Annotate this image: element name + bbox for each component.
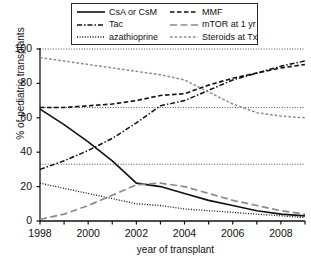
legend-label: mTOR at 1 yr	[199, 20, 256, 29]
legend-label: CsA or CsM	[106, 8, 157, 17]
y-tick-label: 100	[6, 42, 32, 54]
gray-dashed-line-key	[169, 32, 199, 42]
legend-label: Steroids at Tx	[199, 33, 257, 42]
legend: CsA or CsM Tac azathioprine MMF	[71, 3, 258, 45]
x-axis-label: year of transplant	[40, 244, 311, 255]
dashed-line-key	[169, 7, 199, 17]
solid-line-key	[76, 7, 106, 17]
x-tick-label: 2000	[68, 227, 108, 239]
series-line-steroids-at-tx	[40, 58, 305, 118]
series-line-csa-or-csm	[40, 109, 305, 216]
x-tick-label: 2002	[116, 227, 156, 239]
legend-column-right: MMF mTOR at 1 yr Steroids at Tx	[169, 6, 257, 44]
legend-label: MMF	[199, 8, 223, 17]
y-tick-label: 20	[6, 180, 32, 192]
legend-label: Tac	[106, 20, 123, 29]
x-tick-label: 2008	[261, 227, 301, 239]
legend-item: mTOR at 1 yr	[169, 19, 257, 32]
y-tick-label: 0	[6, 214, 32, 226]
dashdot-line-key	[76, 20, 106, 30]
dotted-line-key	[76, 32, 106, 42]
y-tick-label: 40	[6, 145, 32, 157]
legend-item: CsA or CsM	[76, 6, 158, 19]
legend-item: Steroids at Tx	[169, 31, 257, 44]
legend-item: azathioprine	[76, 31, 158, 44]
legend-item: Tac	[76, 19, 158, 32]
legend-label: azathioprine	[106, 33, 158, 42]
figure: % of pediatric transplants year of trans…	[0, 0, 311, 265]
longdash-line-key	[169, 20, 199, 30]
x-tick-label: 1998	[20, 227, 60, 239]
y-tick-label: 80	[6, 76, 32, 88]
series-line-mtor-at-1-yr	[40, 183, 305, 219]
legend-column-left: CsA or CsM Tac azathioprine	[76, 6, 158, 44]
y-tick-label: 60	[6, 111, 32, 123]
legend-item: MMF	[169, 6, 257, 19]
x-tick-label: 2004	[165, 227, 205, 239]
x-tick-label: 2006	[213, 227, 253, 239]
series-line-mmf	[40, 64, 305, 107]
